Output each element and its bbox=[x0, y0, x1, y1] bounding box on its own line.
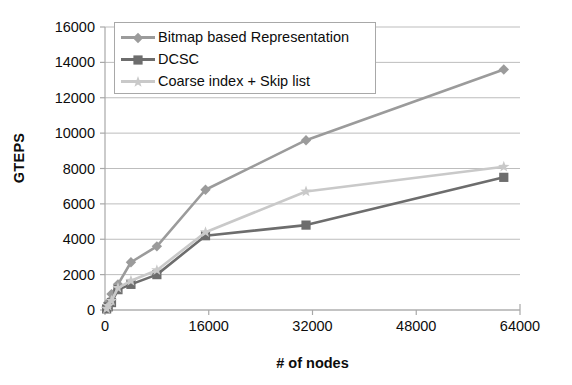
legend-marker-star-icon bbox=[131, 75, 145, 89]
legend-label: Bitmap based Representation bbox=[158, 29, 349, 45]
chart-legend: Bitmap based RepresentationDCSCCoarse in… bbox=[114, 22, 376, 94]
chart-container: GTEPS # of nodes 02000400060008000100001… bbox=[0, 0, 572, 385]
data-point-marker-diamond bbox=[133, 32, 143, 42]
series-2 bbox=[101, 161, 510, 314]
legend-item-1[interactable]: DCSC bbox=[121, 48, 369, 70]
series-line bbox=[107, 177, 504, 309]
legend-label: Coarse index + Skip list bbox=[158, 73, 310, 89]
legend-item-0[interactable]: Bitmap based Representation bbox=[121, 26, 369, 48]
legend-marker-diamond-icon bbox=[131, 31, 145, 45]
data-point-marker-star bbox=[300, 185, 311, 196]
legend-marker-square-icon bbox=[131, 53, 145, 67]
data-series-layer bbox=[101, 64, 510, 313]
legend-swatch-diamond-icon bbox=[121, 28, 155, 46]
legend-swatch-square-icon bbox=[121, 50, 155, 68]
data-point-marker-square bbox=[499, 173, 508, 182]
data-point-marker-square bbox=[301, 221, 310, 230]
data-point-marker-diamond bbox=[301, 135, 311, 145]
data-point-marker-square bbox=[133, 55, 142, 64]
legend-swatch-star-icon bbox=[121, 72, 155, 90]
data-point-marker-star bbox=[132, 76, 143, 87]
legend-item-2[interactable]: Coarse index + Skip list bbox=[121, 70, 369, 92]
data-point-marker-diamond bbox=[499, 64, 509, 74]
data-point-marker-star bbox=[498, 161, 509, 172]
legend-label: DCSC bbox=[158, 51, 199, 67]
